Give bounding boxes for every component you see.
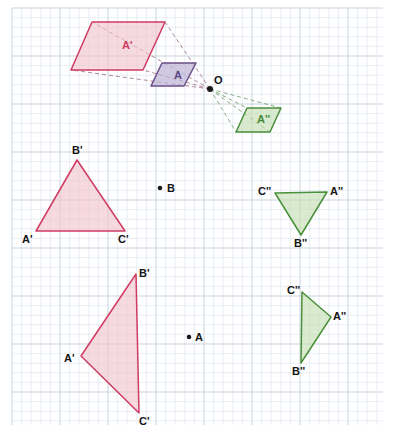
triangle-a-prime-middle-vertex-label-0: A' — [22, 234, 33, 245]
center-of-dilation-label: O — [214, 75, 223, 86]
center-point-label: B — [167, 183, 175, 194]
geometry-figure: A'AA''OA'B'C'A''B''C''BA'B'C'A''B''C''A — [0, 0, 397, 438]
parallelogram-a-double-prime-label: A'' — [257, 114, 270, 125]
ray-o-to-a-double-prime-tl — [210, 89, 247, 108]
triangle-a-double-prime-bottom — [301, 292, 331, 363]
parallelogram-a-prime-label: A' — [122, 40, 133, 51]
triangle-a-prime-middle-vertex-label-2: C' — [118, 234, 129, 245]
triangle-a-prime-middle-vertex-label-1: B' — [72, 145, 83, 156]
center-of-dilation-dot — [207, 86, 213, 92]
triangle-a-double-prime-middle-vertex-label-0: A'' — [330, 186, 343, 197]
center-point-dot — [187, 335, 192, 340]
shapes-layer — [36, 22, 331, 413]
center-point-dot — [158, 186, 163, 191]
triangle-a-double-prime-bottom-vertex-label-2: C'' — [287, 285, 300, 296]
triangle-a-double-prime-middle-vertex-label-2: C'' — [258, 186, 271, 197]
points-layer — [158, 86, 213, 339]
triangle-a-prime-bottom-vertex-label-2: C' — [139, 416, 150, 427]
center-point-label: A — [195, 332, 203, 343]
triangle-a-prime-bottom-vertex-label-1: B' — [139, 268, 150, 279]
triangle-a-prime-bottom-vertex-label-0: A' — [64, 353, 75, 364]
parallelogram-a-label: A — [174, 70, 182, 81]
figure-canvas — [0, 0, 397, 438]
triangle-a-double-prime-bottom-vertex-label-1: B'' — [292, 366, 305, 377]
triangle-a-prime-middle — [36, 160, 125, 231]
parallelogram-a-prime — [71, 22, 165, 70]
triangle-a-double-prime-middle-vertex-label-1: B'' — [294, 238, 307, 249]
ray-o-to-a-double-prime-tr — [210, 89, 281, 108]
triangle-a-double-prime-bottom-vertex-label-0: A'' — [333, 311, 346, 322]
